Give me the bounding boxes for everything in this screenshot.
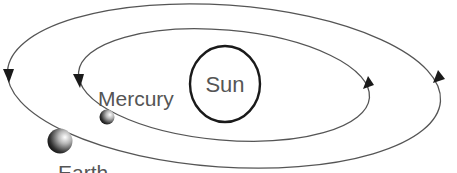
sun-label: Sun [205,72,244,97]
earth-orbit-arrow-right-icon [433,70,445,83]
earth-planet [48,129,73,154]
mercury-planet [100,110,115,125]
earth-label: Earth [58,161,108,173]
mercury-label: Mercury [98,87,174,110]
solar-system-diagram: Sun Mercury Earth [0,0,457,173]
earth-orbit-arrow-left-icon [3,69,14,83]
